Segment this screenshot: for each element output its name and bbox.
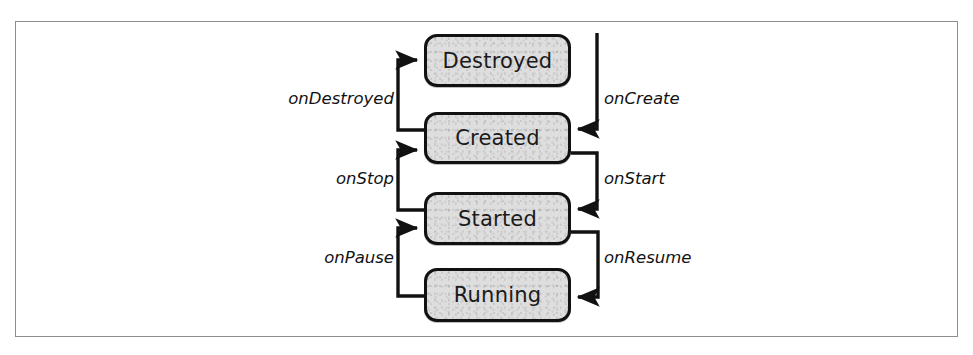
state-label-created: Created: [455, 126, 540, 150]
edge-on-resume: [571, 232, 598, 297]
edge-on-destroyed: [398, 60, 424, 130]
edge-label-on-resume: onResume: [604, 249, 691, 267]
edge-label-on-create: onCreate: [604, 90, 680, 108]
state-box-running[interactable]: Running: [424, 268, 571, 322]
edge-on-create: [578, 33, 597, 129]
edge-label-on-pause: onPause: [324, 249, 394, 267]
state-box-destroyed[interactable]: Destroyed: [424, 34, 571, 87]
edge-on-pause: [398, 228, 424, 296]
edge-label-on-stop: onStop: [336, 170, 394, 188]
state-box-created[interactable]: Created: [424, 112, 571, 164]
figure-canvas: Destroyed Created Started Running onCrea…: [0, 0, 973, 355]
state-box-started[interactable]: Started: [424, 192, 571, 245]
edge-label-on-destroyed: onDestroyed: [288, 90, 394, 108]
edge-on-start: [571, 153, 597, 209]
state-label-running: Running: [454, 283, 541, 307]
edge-label-on-start: onStart: [604, 170, 665, 188]
state-label-destroyed: Destroyed: [443, 49, 553, 73]
state-label-started: Started: [458, 207, 537, 231]
edge-on-stop: [398, 150, 424, 210]
